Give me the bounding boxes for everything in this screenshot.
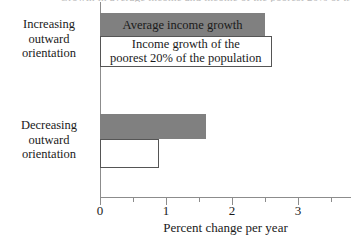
bar-label-line: poorest 20% of the population bbox=[101, 51, 271, 65]
x-axis-line bbox=[100, 197, 351, 198]
category-label-line: Decreasing bbox=[2, 118, 96, 133]
bar-decreasing-poorest-20-income-growth bbox=[100, 139, 159, 168]
bar-label-average-income-growth: Average income growth bbox=[101, 18, 264, 32]
category-label-line: outward bbox=[2, 32, 96, 47]
bar-decreasing-average-income-growth bbox=[100, 114, 206, 139]
bar-increasing-poorest-20-income-growth: Income growth of the poorest 20% of the … bbox=[100, 36, 272, 67]
category-label-increasing: Increasing outward orientation bbox=[2, 17, 96, 61]
bar-label-line: Income growth of the bbox=[101, 37, 271, 51]
cut-off-caption: Growth in average income and income of t… bbox=[60, 0, 350, 2]
x-tick-0-5 bbox=[133, 198, 134, 202]
category-label-line: Increasing bbox=[2, 17, 96, 32]
bar-label-poorest-20: Income growth of the poorest 20% of the … bbox=[101, 37, 271, 65]
category-label-decreasing: Decreasing outward orientation bbox=[2, 118, 96, 162]
category-label-line: orientation bbox=[2, 46, 96, 61]
x-tick-1-5 bbox=[199, 198, 200, 202]
bar-increasing-average-income-growth: Average income growth bbox=[100, 13, 265, 36]
x-tick-label-3: 3 bbox=[288, 204, 308, 218]
x-tick-label-2: 2 bbox=[222, 204, 242, 218]
x-tick-label-1: 1 bbox=[156, 204, 176, 218]
category-label-line: orientation bbox=[2, 147, 96, 162]
x-axis-title: Percent change per year bbox=[100, 220, 351, 236]
x-tick-label-0: 0 bbox=[90, 204, 110, 218]
bar-chart-figure: Growth in average income and income of t… bbox=[0, 0, 353, 238]
category-label-line: outward bbox=[2, 133, 96, 148]
x-tick-3-5 bbox=[331, 198, 332, 202]
x-tick-2-5 bbox=[265, 198, 266, 202]
